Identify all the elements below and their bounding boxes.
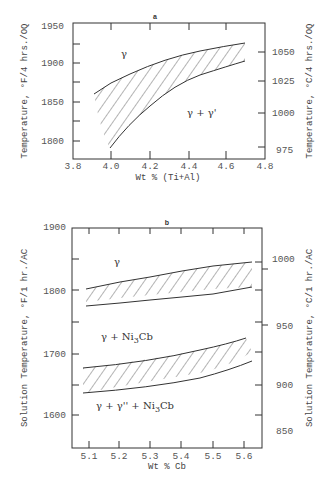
svg-text:4.8: 4.8 [256, 161, 273, 172]
panel-b-left-y-ticks [72, 259, 79, 415]
svg-text:975: 975 [276, 145, 293, 156]
svg-text:1025: 1025 [272, 76, 295, 87]
svg-text:950: 950 [276, 321, 293, 332]
panel-a-title: a [153, 13, 157, 20]
panel-a-left-axis-title: Temperature, °F/4 hrs./OQ [20, 23, 30, 158]
svg-text:5.4: 5.4 [172, 451, 189, 462]
panel-b-gamma-ni3cb-label: γ + Ni3Cb [101, 331, 153, 345]
panel-b-left-axis-title: Solution Temperature, °F/1 hr./AC [20, 248, 30, 427]
chart-panel-a: a 3.8 4.0 4.2 4.4 4.6 4.8 [20, 13, 315, 183]
panel-a-right-y-labels: 1050 1025 1000 975 [272, 47, 295, 156]
svg-text:5.6: 5.6 [235, 451, 252, 462]
svg-text:1050: 1050 [272, 47, 295, 58]
svg-text:5.3: 5.3 [141, 451, 158, 462]
svg-text:4.0: 4.0 [102, 161, 119, 172]
panel-b-right-axis-title: Solution Temperature, °C/1 hr./AC [305, 248, 315, 427]
panel-b-x-axis-title: Wt % Cb [148, 462, 186, 472]
panel-a-gamma-prime-label: γ + γ' [187, 107, 216, 118]
panel-a-left-y-ticks [73, 44, 80, 141]
svg-text:900: 900 [276, 380, 293, 391]
svg-text:850: 850 [276, 426, 293, 437]
panel-b-x-tick-labels: 5.1 5.2 5.3 5.4 5.5 5.6 [80, 451, 252, 462]
panel-b-gamma-label: γ [114, 256, 120, 267]
svg-text:1900: 1900 [41, 58, 64, 69]
svg-text:4.4: 4.4 [180, 161, 197, 172]
svg-text:1000: 1000 [272, 254, 295, 265]
svg-text:1850: 1850 [41, 97, 64, 108]
panel-a-gamma-label: γ [121, 48, 127, 59]
panel-b-gamma-gpp-ni3cb-label: γ + γ'' + Ni3Cb [96, 400, 174, 414]
svg-text:1000: 1000 [272, 108, 295, 119]
panel-a-x-axis-title: Wt % (Ti+Al) [136, 173, 201, 183]
svg-text:4.2: 4.2 [141, 161, 158, 172]
svg-text:1600: 1600 [43, 410, 66, 421]
svg-text:5.2: 5.2 [110, 451, 127, 462]
panel-a-x-tick-labels: 3.8 4.0 4.2 4.4 4.6 4.8 [64, 161, 273, 172]
panel-a-right-y-ticks [258, 52, 265, 147]
panel-a-left-y-labels: 1950 1900 1850 1800 [41, 21, 64, 147]
svg-text:1900: 1900 [43, 222, 66, 233]
svg-text:5.1: 5.1 [80, 451, 97, 462]
svg-text:5.5: 5.5 [204, 451, 221, 462]
panel-b-right-y-labels: 1000 950 900 850 [272, 254, 295, 437]
panel-b-upper-hatched-band [86, 262, 252, 302]
panel-a-right-axis-title: Temperature, °C/4 hrs./OQ [305, 23, 315, 158]
svg-text:1950: 1950 [41, 21, 64, 32]
chart-panel-b: b 5.1 5.2 5.3 5.4 [20, 219, 315, 472]
svg-text:1800: 1800 [43, 286, 66, 297]
svg-text:3.8: 3.8 [64, 161, 81, 172]
figure: a 3.8 4.0 4.2 4.4 4.6 4.8 [0, 0, 330, 483]
svg-text:4.6: 4.6 [217, 161, 234, 172]
panel-b-title: b [165, 219, 169, 226]
panel-b-left-y-labels: 1900 1800 1700 1600 [43, 222, 66, 421]
svg-text:1800: 1800 [41, 136, 64, 147]
svg-text:1700: 1700 [43, 349, 66, 360]
